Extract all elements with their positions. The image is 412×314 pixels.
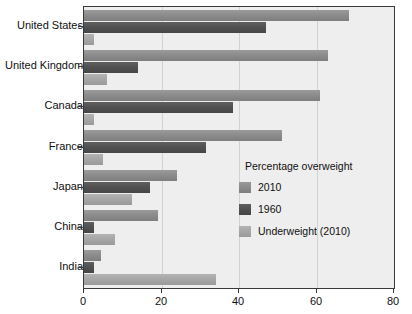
bar-china-1960 bbox=[84, 222, 94, 233]
legend: Percentage overweight 2010 1960 Underwei… bbox=[239, 160, 404, 247]
legend-label-underweight: Underweight (2010) bbox=[258, 225, 350, 237]
bar-united-kingdom-1960 bbox=[84, 62, 138, 73]
y-axis-label-france: France bbox=[5, 141, 83, 152]
y-axis-label-united-states: United States bbox=[5, 20, 83, 31]
legend-title: Percentage overweight bbox=[245, 160, 404, 172]
x-axis-tick bbox=[393, 288, 394, 293]
bar-japan-underweight-2010- bbox=[84, 194, 132, 205]
legend-swatch-2010-icon bbox=[239, 182, 251, 193]
x-axis-tick-label-0: 0 bbox=[68, 295, 98, 307]
bar-united-states-underweight-2010- bbox=[84, 34, 94, 45]
y-axis-tick bbox=[78, 106, 83, 107]
bar-france-2010 bbox=[84, 130, 282, 141]
bar-united-states-1960 bbox=[84, 22, 266, 33]
x-axis-tick bbox=[83, 288, 84, 293]
bar-japan-2010 bbox=[84, 170, 177, 181]
legend-item-2010: 2010 bbox=[239, 181, 404, 193]
bar-india-2010 bbox=[84, 250, 101, 261]
y-axis-tick bbox=[78, 26, 83, 27]
x-axis-tick bbox=[238, 288, 239, 293]
x-axis-tick-label-40: 40 bbox=[223, 295, 253, 307]
x-axis-tick-label-60: 60 bbox=[301, 295, 331, 307]
bar-china-2010 bbox=[84, 210, 158, 221]
legend-item-underweight: Underweight (2010) bbox=[239, 225, 404, 237]
bar-canada-underweight-2010- bbox=[84, 114, 94, 125]
bar-france-underweight-2010- bbox=[84, 154, 103, 165]
legend-item-1960: 1960 bbox=[239, 203, 404, 215]
overweight-underweight-bar-chart: United StatesUnited KingdomCanadaFranceJ… bbox=[0, 0, 412, 314]
y-axis-label-japan: Japan bbox=[5, 181, 83, 192]
bar-united-kingdom-underweight-2010- bbox=[84, 74, 107, 85]
y-axis-label-united-kingdom: United Kingdom bbox=[5, 60, 83, 71]
bar-canada-2010 bbox=[84, 90, 320, 101]
y-axis-label-canada: Canada bbox=[5, 100, 83, 111]
y-axis-tick bbox=[78, 187, 83, 188]
legend-label-1960: 1960 bbox=[258, 203, 281, 215]
y-axis-label-india: India bbox=[5, 261, 83, 272]
bar-japan-1960 bbox=[84, 182, 150, 193]
x-axis-tick-label-80: 80 bbox=[378, 295, 408, 307]
legend-swatch-1960-icon bbox=[239, 204, 251, 215]
y-axis-labels: United StatesUnited KingdomCanadaFranceJ… bbox=[0, 0, 83, 314]
y-axis-tick bbox=[78, 227, 83, 228]
bar-india-underweight-2010- bbox=[84, 274, 216, 285]
y-axis-tick bbox=[78, 147, 83, 148]
bar-canada-1960 bbox=[84, 102, 233, 113]
x-axis-tick-label-20: 20 bbox=[146, 295, 176, 307]
x-axis-tick bbox=[316, 288, 317, 293]
x-axis-tick bbox=[161, 288, 162, 293]
y-axis-label-china: China bbox=[5, 221, 83, 232]
bar-united-states-2010 bbox=[84, 10, 349, 21]
bar-china-underweight-2010- bbox=[84, 234, 115, 245]
bar-france-1960 bbox=[84, 142, 206, 153]
legend-label-2010: 2010 bbox=[258, 181, 281, 193]
legend-swatch-underweight-icon bbox=[239, 226, 251, 237]
y-axis-tick bbox=[78, 267, 83, 268]
bar-india-1960 bbox=[84, 262, 94, 273]
y-axis-tick bbox=[78, 66, 83, 67]
bar-united-kingdom-2010 bbox=[84, 50, 328, 61]
